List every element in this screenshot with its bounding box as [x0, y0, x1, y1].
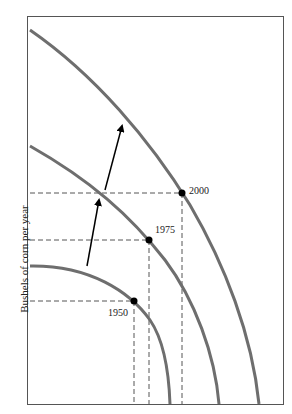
- ppf-curve-1950: [30, 266, 170, 404]
- ppf-curve-2000: [30, 30, 259, 404]
- point-1950: [131, 298, 138, 305]
- label-2000: 2000: [189, 185, 209, 196]
- point-2000: [179, 190, 186, 197]
- label-1975: 1975: [155, 224, 175, 235]
- point-1975: [146, 237, 153, 244]
- shift-arrow-2: [105, 126, 122, 190]
- label-1950: 1950: [108, 307, 128, 318]
- y-axis-label: Bushels of corn per year: [18, 184, 30, 334]
- plot-frame: [28, 17, 284, 405]
- ppf-chart: 1950 1975 2000: [0, 0, 292, 414]
- shift-arrow-1: [87, 200, 99, 266]
